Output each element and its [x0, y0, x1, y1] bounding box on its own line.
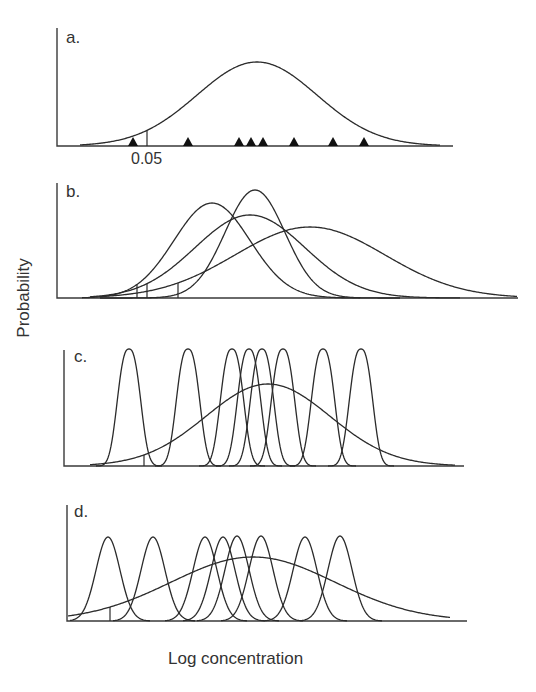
- data-point-triangle-icon: [128, 137, 138, 146]
- data-point-triangle-icon: [328, 137, 338, 146]
- panel-a: [57, 28, 453, 146]
- probability-curve: [265, 537, 347, 621]
- probability-curve: [90, 215, 460, 298]
- probability-curve: [96, 349, 162, 466]
- probability-curve: [100, 190, 400, 298]
- probability-curve: [328, 349, 394, 466]
- axes: [67, 505, 467, 621]
- data-point-triangle-icon: [234, 137, 244, 146]
- data-point-triangle-icon: [183, 137, 193, 146]
- data-point-triangle-icon: [258, 137, 268, 146]
- probability-curve: [100, 227, 517, 297]
- probability-curve: [113, 537, 195, 621]
- threshold-tick-label: 0.05: [131, 150, 162, 168]
- probability-curve: [155, 349, 221, 466]
- data-point-triangle-icon: [289, 137, 299, 146]
- panel-d: [67, 505, 467, 621]
- plot-canvas: [0, 0, 536, 692]
- data-point-triangle-icon: [246, 137, 256, 146]
- x-axis-label: Log concentration: [168, 649, 303, 669]
- panel-label-d: d.: [74, 502, 88, 522]
- panel-b: [57, 183, 518, 298]
- probability-curve: [82, 203, 360, 298]
- axes: [57, 183, 518, 298]
- panel-c: [64, 349, 464, 466]
- panel-label-c: c.: [74, 347, 87, 367]
- y-axis-label: Probability: [14, 250, 34, 346]
- probability-curve: [250, 349, 316, 466]
- probability-curve: [80, 62, 440, 145]
- data-point-triangle-icon: [359, 137, 369, 146]
- panel-label-a: a.: [66, 28, 80, 48]
- figure: a. b. c. d. 0.05 Probability Log concent…: [0, 0, 536, 692]
- probability-curve: [300, 536, 382, 621]
- probability-curve: [183, 537, 265, 621]
- panel-label-b: b.: [66, 182, 80, 202]
- probability-curve: [68, 557, 450, 617]
- axes: [57, 28, 453, 146]
- probability-curve: [90, 384, 455, 465]
- probability-curve: [290, 349, 356, 466]
